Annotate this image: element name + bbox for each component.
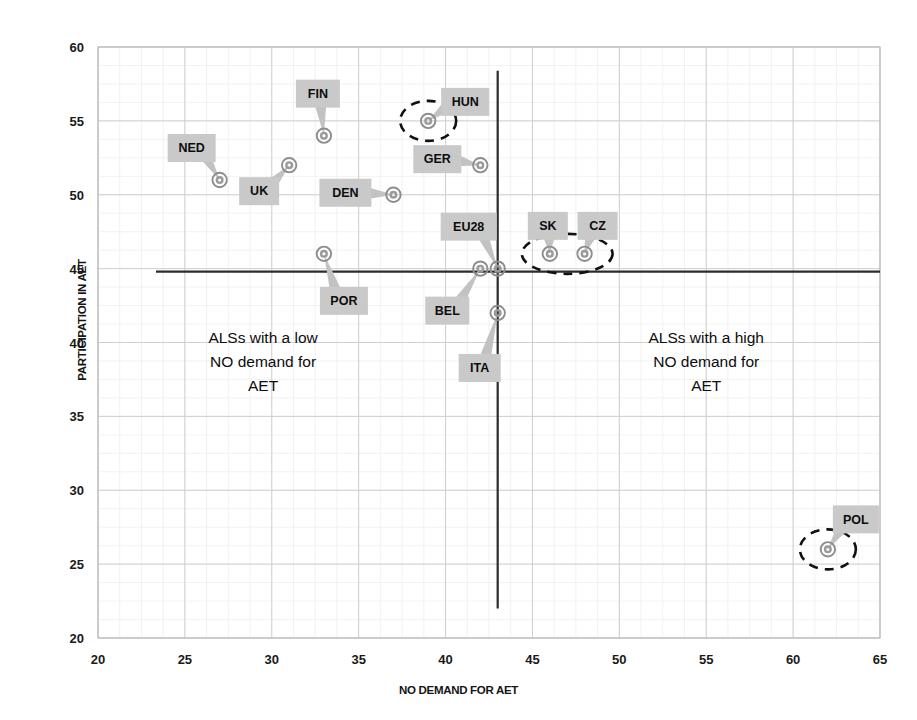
- marker-inner-dot: [321, 133, 327, 139]
- point-label-fin[interactable]: FIN: [296, 80, 340, 108]
- high-demand-quadrant-line-2: NO demand for: [653, 353, 759, 370]
- y-tick-label-35: 35: [70, 409, 84, 424]
- point-label-bel[interactable]: BEL: [425, 297, 469, 325]
- low-demand-quadrant-line-3: AET: [248, 377, 279, 394]
- point-label-ger[interactable]: GER: [413, 145, 461, 173]
- x-tick-label-50: 50: [612, 652, 626, 667]
- label-text: SK: [539, 219, 556, 233]
- high-demand-quadrant-line-1: ALSs with a high: [648, 329, 763, 346]
- low-demand-quadrant: ALSs with a lowNO demand forAET: [208, 329, 318, 394]
- marker-inner-dot: [286, 162, 292, 168]
- label-text: HUN: [452, 95, 479, 109]
- high-demand-quadrant-line-3: AET: [691, 377, 722, 394]
- leader-fin: [315, 105, 326, 136]
- x-tick-label-35: 35: [351, 652, 365, 667]
- x-tick-label-20: 20: [91, 652, 105, 667]
- label-text: DEN: [332, 186, 358, 200]
- y-tick-label-45: 45: [70, 262, 84, 277]
- x-tick-label-45: 45: [525, 652, 539, 667]
- data-point-por[interactable]: POR (33, 46): [317, 247, 331, 261]
- label-text: EU28: [453, 220, 484, 234]
- label-text: POR: [330, 294, 357, 308]
- low-demand-quadrant-line-1: ALSs with a low: [208, 329, 318, 346]
- highlight-groups: [400, 101, 856, 569]
- point-label-ned[interactable]: NED: [168, 134, 216, 162]
- x-tick-label-60: 60: [786, 652, 800, 667]
- x-tick-label-30: 30: [265, 652, 279, 667]
- point-label-sk[interactable]: SK: [528, 212, 568, 240]
- x-tick-label-65: 65: [873, 652, 887, 667]
- y-tick-label-50: 50: [70, 188, 84, 203]
- label-text: UK: [250, 184, 268, 198]
- y-tick-label-60: 60: [70, 40, 84, 55]
- scatter-plot-canvas: 20253035404550556065202530354045505560AL…: [0, 0, 917, 720]
- label-text: BEL: [435, 304, 460, 318]
- scatter-chart-figure: 20253035404550556065202530354045505560AL…: [0, 0, 917, 720]
- x-axis-title: NO DEMAND FOR AET: [0, 684, 917, 696]
- data-point-uk[interactable]: UK (31, 52): [282, 158, 296, 172]
- point-label-por[interactable]: POR: [320, 287, 368, 315]
- y-tick-label-25: 25: [70, 557, 84, 572]
- point-label-den[interactable]: DEN: [319, 179, 371, 207]
- label-text: GER: [424, 152, 451, 166]
- y-tick-label-20: 20: [70, 631, 84, 646]
- point-label-ita[interactable]: ITA: [459, 354, 501, 382]
- marker-outer-ring: [282, 158, 296, 172]
- leader-lines-group: [202, 102, 846, 549]
- point-label-hun[interactable]: HUN: [441, 88, 489, 116]
- point-label-uk[interactable]: UK: [239, 177, 279, 205]
- label-text: POL: [843, 513, 869, 527]
- label-text: CZ: [589, 219, 606, 233]
- point-label-cz[interactable]: CZ: [578, 212, 618, 240]
- point-labels-group: NEDUKFINPORDENHUNGERBELEU28ITASKCZPOL: [168, 80, 879, 534]
- x-tick-label-40: 40: [438, 652, 452, 667]
- label-text: NED: [178, 141, 204, 155]
- x-tick-label-55: 55: [699, 652, 713, 667]
- y-tick-label-55: 55: [70, 114, 84, 129]
- leader-por: [324, 254, 340, 292]
- y-tick-label-30: 30: [70, 483, 84, 498]
- point-label-eu28[interactable]: EU28: [441, 213, 497, 241]
- label-text: ITA: [470, 361, 489, 375]
- marker-inner-dot: [321, 251, 327, 257]
- point-label-pol[interactable]: POL: [833, 505, 879, 533]
- y-tick-label-40: 40: [70, 336, 84, 351]
- marker-outer-ring: [317, 247, 331, 261]
- x-tick-label-25: 25: [178, 652, 192, 667]
- label-text: FIN: [308, 87, 328, 101]
- high-demand-quadrant: ALSs with a highNO demand forAET: [648, 329, 763, 394]
- low-demand-quadrant-line-2: NO demand for: [210, 353, 316, 370]
